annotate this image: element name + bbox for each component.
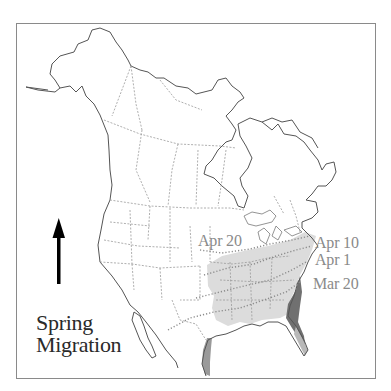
isochrone-label-apr20: Apr 20 <box>198 233 242 249</box>
isochrone-label-mar20: Mar 20 <box>313 276 358 292</box>
hudson-bay <box>262 118 318 148</box>
isochrone-label-apr1: Apr 1 <box>315 252 351 268</box>
isochrone-label-apr10: Apr 10 <box>315 235 359 251</box>
arrow-up-icon <box>53 218 66 284</box>
map-title-line2: Migration <box>36 334 121 355</box>
map-title-line1: Spring <box>36 312 93 333</box>
